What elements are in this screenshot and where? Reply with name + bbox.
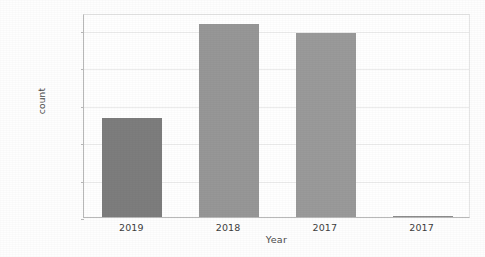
bar[interactable] bbox=[393, 216, 453, 218]
gridline bbox=[84, 32, 469, 33]
x-axis-title: Year bbox=[83, 234, 470, 245]
y-axis-title: count bbox=[37, 71, 47, 131]
bar-chart-figure: count 050000100000150000200000250000 201… bbox=[0, 0, 485, 257]
gridline bbox=[84, 107, 469, 108]
gridline bbox=[84, 69, 469, 70]
x-tick-label: 2019 bbox=[119, 222, 144, 233]
y-tick-mark bbox=[81, 182, 84, 183]
y-tick-mark bbox=[81, 32, 84, 33]
x-tick-label: 2017 bbox=[312, 222, 337, 233]
plot-area bbox=[83, 14, 470, 218]
y-tick-mark bbox=[81, 219, 84, 220]
y-tick-mark bbox=[81, 107, 84, 108]
x-tick-label: 2017 bbox=[409, 222, 434, 233]
y-tick-mark bbox=[81, 69, 84, 70]
bar[interactable] bbox=[102, 118, 162, 217]
x-tick-label: 2018 bbox=[216, 222, 241, 233]
y-tick-mark bbox=[81, 144, 84, 145]
bar[interactable] bbox=[199, 24, 259, 218]
bar[interactable] bbox=[296, 33, 356, 217]
